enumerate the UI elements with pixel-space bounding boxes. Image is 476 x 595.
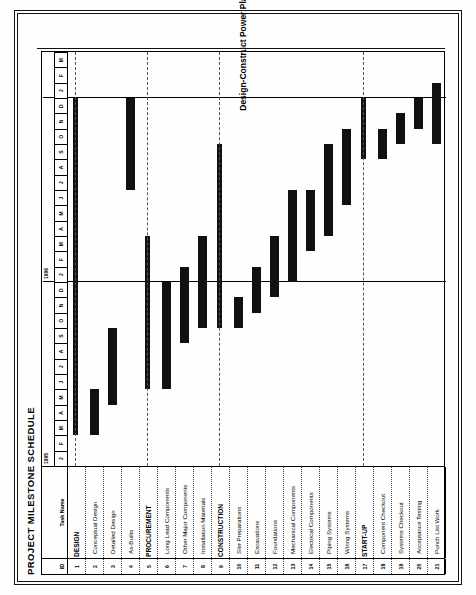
- task-name: Excavations: [248, 467, 266, 558]
- task-name-summary: START-UP: [356, 467, 374, 558]
- month-tick: M: [55, 236, 68, 251]
- caption-divider: [37, 48, 445, 49]
- table-row[interactable]: Punch List Work: [428, 467, 446, 558]
- table-row[interactable]: Piping Systems: [320, 467, 338, 558]
- table-row[interactable]: 5: [140, 559, 158, 574]
- table-row[interactable]: 17: [356, 559, 374, 574]
- table-row[interactable]: Conceptual Design: [86, 467, 104, 558]
- table-row[interactable]: DESIGN: [68, 467, 86, 558]
- task-id: 16: [338, 559, 356, 574]
- table-row[interactable]: Site Preparations: [230, 467, 248, 558]
- gantt-task-bar[interactable]: [288, 190, 297, 282]
- table-row[interactable]: Long Lead Components: [158, 467, 176, 558]
- gantt-task-bar[interactable]: [324, 144, 333, 236]
- gantt-task-bar[interactable]: [234, 297, 243, 328]
- caption-panel: Design-Construct Power Plant Project: [41, 21, 445, 47]
- task-id: 17: [356, 559, 374, 574]
- task-id: 1: [68, 559, 86, 574]
- table-row[interactable]: Component Checkout: [374, 467, 392, 558]
- table-row[interactable]: Detailed Design: [104, 467, 122, 558]
- table-row[interactable]: CONSTRUCTION: [212, 467, 230, 558]
- gantt-task-bar[interactable]: [108, 328, 117, 405]
- month-tick: M: [55, 420, 68, 435]
- task-name: Punch List Work: [428, 467, 446, 558]
- gantt-task-bar[interactable]: [180, 267, 189, 344]
- task-id: 3: [104, 559, 122, 574]
- table-row[interactable]: 16: [338, 559, 356, 574]
- task-id: 10: [230, 559, 248, 574]
- gantt-task-bar[interactable]: [396, 113, 405, 144]
- month-tick: J: [55, 83, 68, 98]
- year-label: 1996: [43, 98, 54, 282]
- task-name: Foundations: [266, 467, 284, 558]
- month-tick: A: [55, 343, 68, 358]
- table-row[interactable]: 13: [284, 559, 302, 574]
- task-name-summary: PROCUREMENT: [140, 467, 158, 558]
- table-row[interactable]: 14: [302, 559, 320, 574]
- id-cell-list: 123456789101112131415161718192021: [68, 559, 444, 574]
- task-name-summary: CONSTRUCTION: [212, 467, 230, 558]
- table-row[interactable]: 11: [248, 559, 266, 574]
- table-row[interactable]: Systems Checkout: [392, 467, 410, 558]
- table-row[interactable]: 7: [176, 559, 194, 574]
- table-row[interactable]: 21: [428, 559, 446, 574]
- month-tick: J: [55, 267, 68, 282]
- gantt-task-bar[interactable]: [342, 129, 351, 206]
- table-row[interactable]: 9: [212, 559, 230, 574]
- gantt-task-bar[interactable]: [414, 98, 423, 129]
- task-id: 14: [302, 559, 320, 574]
- gantt-task-bar[interactable]: [126, 98, 135, 190]
- task-name: Component Checkout: [374, 467, 392, 558]
- gantt-task-bar[interactable]: [252, 267, 261, 313]
- table-row[interactable]: 18: [374, 559, 392, 574]
- gantt-task-bar[interactable]: [162, 282, 171, 389]
- table-row[interactable]: Acceptance Testing: [410, 467, 428, 558]
- caption-wrapper: Design-Construct Power Plant Project: [230, 0, 256, 236]
- month-tick: A: [55, 159, 68, 174]
- task-name-list: DESIGNConceptual DesignDetailed DesignAs…: [68, 467, 444, 558]
- milestone-guide-line: [219, 52, 220, 466]
- table-row[interactable]: Installation Materials: [194, 467, 212, 558]
- task-id: 13: [284, 559, 302, 574]
- table-row[interactable]: 12: [266, 559, 284, 574]
- month-tick: N: [55, 113, 68, 128]
- task-id: 5: [140, 559, 158, 574]
- gantt-task-bar[interactable]: [432, 83, 441, 144]
- table-row[interactable]: Wiring Systems: [338, 467, 356, 558]
- month-tick: S: [55, 328, 68, 343]
- gantt-task-bar[interactable]: [90, 389, 99, 435]
- year-scale: 19951996: [42, 52, 54, 466]
- gantt-plot-area: [68, 52, 446, 466]
- table-row[interactable]: START-UP: [356, 467, 374, 558]
- table-row[interactable]: 4: [122, 559, 140, 574]
- table-row[interactable]: PROCUREMENT: [140, 467, 158, 558]
- table-row[interactable]: 8: [194, 559, 212, 574]
- table-row[interactable]: 19: [392, 559, 410, 574]
- table-row[interactable]: 10: [230, 559, 248, 574]
- gantt-task-bar[interactable]: [306, 190, 315, 251]
- table-row[interactable]: 2: [86, 559, 104, 574]
- table-row[interactable]: 15: [320, 559, 338, 574]
- task-name: Site Preparations: [230, 467, 248, 558]
- task-id: 2: [86, 559, 104, 574]
- month-tick: F: [55, 251, 68, 266]
- table-row[interactable]: Mechanical Components: [284, 467, 302, 558]
- task-name: Other Major Components: [176, 467, 194, 558]
- task-name: Detailed Design: [104, 467, 122, 558]
- table-row[interactable]: 6: [158, 559, 176, 574]
- month-tick: J: [55, 374, 68, 389]
- table-row[interactable]: Foundations: [266, 467, 284, 558]
- table-row[interactable]: Other Major Components: [176, 467, 194, 558]
- column-name-header: Task Name: [42, 467, 68, 558]
- gantt-task-bar[interactable]: [270, 236, 279, 297]
- gantt-task-bar[interactable]: [198, 236, 207, 328]
- table-row[interactable]: 20: [410, 559, 428, 574]
- table-row[interactable]: 1: [68, 559, 86, 574]
- table-row[interactable]: As-Builts: [122, 467, 140, 558]
- gantt-task-bar[interactable]: [378, 129, 387, 160]
- table-row[interactable]: 3: [104, 559, 122, 574]
- table-row[interactable]: Excavations: [248, 467, 266, 558]
- task-name-summary: DESIGN: [68, 467, 86, 558]
- task-id: 21: [428, 559, 446, 574]
- table-row[interactable]: Electrical Components: [302, 467, 320, 558]
